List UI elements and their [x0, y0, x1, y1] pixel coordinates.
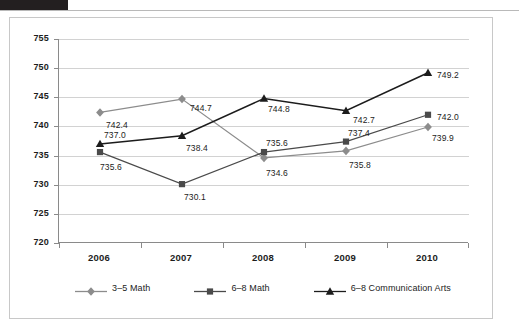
x-tick-mark: [387, 243, 388, 248]
diamond-marker: [87, 287, 95, 296]
x-axis-label: 2007: [140, 252, 222, 263]
data-point-label: 744.7: [190, 103, 212, 113]
y-axis-label: 735: [10, 150, 49, 160]
data-point-label: 739.9: [432, 133, 454, 143]
chart-figure: 742.4744.7734.6735.8739.9735.6730.1735.6…: [0, 0, 519, 336]
x-axis-label: 2008: [222, 252, 304, 263]
y-axis-label: 730: [10, 179, 49, 189]
legend-label: 6–8 Communication Arts: [351, 283, 451, 293]
triangle-marker: [178, 132, 186, 139]
y-axis-label: 740: [10, 120, 49, 130]
data-point-label: 749.2: [437, 70, 459, 80]
square-marker: [207, 288, 213, 294]
page-top-rule: [0, 10, 519, 11]
diamond-marker: [178, 95, 186, 104]
x-axis-label: 2010: [386, 252, 468, 263]
x-tick-mark: [468, 243, 469, 248]
y-axis-label: 745: [10, 91, 49, 101]
legend-label: 3–5 Math: [112, 283, 150, 293]
square-marker: [261, 149, 267, 155]
legend-label: 6–8 Math: [231, 283, 269, 293]
diamond-marker: [96, 108, 104, 117]
x-tick-mark: [59, 243, 60, 248]
y-axis-label: 720: [10, 237, 49, 247]
data-point-label: 742.0: [437, 112, 459, 122]
data-point-label: 744.8: [268, 104, 290, 114]
data-point-label: 735.6: [100, 162, 122, 172]
data-point-label: 737.4: [348, 128, 370, 138]
data-point-label: 735.6: [266, 138, 288, 148]
y-axis-label: 755: [10, 33, 49, 43]
plot-wrapper: 742.4744.7734.6735.8739.9735.6730.1735.6…: [10, 18, 494, 320]
data-point-label: 738.4: [186, 143, 208, 153]
plot-area: 742.4744.7734.6735.8739.9735.6730.1735.6…: [58, 39, 468, 243]
x-tick-mark: [223, 243, 224, 248]
square-marker: [343, 138, 349, 144]
square-marker: [425, 112, 431, 118]
triangle-marker: [424, 69, 432, 76]
diamond-icon: [75, 283, 107, 294]
x-axis-label: 2006: [58, 252, 140, 263]
data-point-label: 734.6: [266, 168, 288, 178]
legend-item[interactable]: 6–8 Math: [194, 283, 269, 294]
data-point-label: 742.7: [353, 115, 375, 125]
square-icon: [194, 283, 226, 294]
diamond-marker: [342, 147, 350, 156]
data-point-label: 730.1: [184, 192, 206, 202]
x-tick-mark: [305, 243, 306, 248]
chart-legend: 3–5 Math6–8 Math6–8 Communication Arts: [58, 276, 468, 300]
y-axis-label: 725: [10, 208, 49, 218]
triangle-icon: [314, 283, 346, 294]
legend-item[interactable]: 6–8 Communication Arts: [314, 283, 451, 294]
data-point-label: 735.8: [349, 160, 371, 170]
chart-container: 742.4744.7734.6735.8739.9735.6730.1735.6…: [9, 17, 493, 319]
series-line: [100, 73, 428, 144]
square-marker: [97, 149, 103, 155]
data-point-label: 737.0: [104, 130, 126, 140]
series-lines: [59, 39, 469, 243]
square-marker: [179, 181, 185, 187]
x-tick-mark: [141, 243, 142, 248]
legend-item[interactable]: 3–5 Math: [75, 283, 150, 294]
x-axis-label: 2009: [304, 252, 386, 263]
y-axis-label: 750: [10, 62, 49, 72]
diamond-marker: [424, 123, 432, 132]
triangle-marker: [260, 94, 268, 101]
